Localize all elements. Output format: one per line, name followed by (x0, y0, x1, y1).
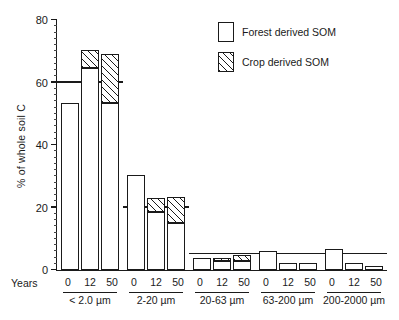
x-tick-label: 12 (145, 276, 167, 290)
bar (101, 54, 120, 270)
bar-group (57, 20, 123, 270)
bar (259, 251, 278, 270)
x-tick-label: 12 (211, 276, 233, 290)
bar (81, 50, 100, 270)
legend-label-forest: Forest derived SOM (242, 26, 336, 38)
bar (299, 263, 318, 270)
bar-segment-forest (259, 251, 278, 270)
x-tick-label: 50 (299, 276, 321, 290)
bar (61, 103, 80, 270)
bar (193, 258, 212, 271)
bar-segment-forest (147, 212, 166, 270)
bar-segment-forest (345, 263, 364, 271)
bar-segment-crop (213, 258, 232, 261)
bar (325, 249, 344, 270)
x-axis-title: Years (11, 277, 37, 289)
legend-label-crop: Crop derived SOM (242, 56, 329, 68)
x-tick-label: 50 (167, 276, 189, 290)
x-tick-label-row: 01250 (57, 276, 123, 290)
bar-segment-crop (101, 54, 120, 102)
bar-segment-forest (325, 249, 344, 270)
y-tick-label: 80 (36, 14, 48, 26)
bar-segment-forest (213, 261, 232, 270)
x-group-underline (327, 292, 381, 293)
y-tick-label: 40 (36, 139, 48, 151)
x-tick-label-row: 01250 (255, 276, 321, 290)
x-group-label: 20-63 µm (185, 294, 259, 306)
legend-item-forest: Forest derived SOM (218, 22, 336, 42)
bar-segment-forest (299, 263, 318, 270)
x-tick-label: 0 (57, 276, 79, 290)
chart-figure: % of whole soil C 020406080 Forest deriv… (0, 0, 399, 320)
bar-segment-forest (101, 103, 120, 270)
bar (167, 197, 186, 270)
legend-item-crop: Crop derived SOM (218, 52, 329, 72)
bar-segment-forest (193, 258, 212, 271)
y-axis-title: % of whole soil C (15, 76, 27, 216)
x-tick-label: 50 (365, 276, 387, 290)
y-tick-label: 20 (36, 202, 48, 214)
bar (345, 263, 364, 271)
x-group-label: 63-200 µm (251, 294, 325, 306)
bar (127, 175, 146, 270)
x-tick-label: 12 (277, 276, 299, 290)
legend: Forest derived SOM Crop derived SOM (218, 22, 381, 74)
legend-swatch-forest (218, 22, 234, 42)
x-tick-label: 0 (321, 276, 343, 290)
bar (365, 266, 384, 270)
x-tick-label-row: 01250 (321, 276, 387, 290)
bar-segment-forest (127, 175, 146, 270)
x-group-underline (63, 292, 117, 293)
x-group-label: < 2.0 µm (53, 294, 127, 306)
y-tick-label: 60 (36, 77, 48, 89)
x-tick-label: 0 (123, 276, 145, 290)
bar-group (123, 20, 189, 270)
x-group-label: 200-2000 µm (317, 294, 391, 306)
bar (233, 255, 252, 270)
bar (213, 258, 232, 270)
bar-segment-forest (279, 263, 298, 270)
x-axis: Years 01250< 2.0 µm012502-20 µm0125020-6… (0, 272, 399, 320)
bar-segment-forest (61, 103, 80, 270)
bar-segment-forest (233, 261, 252, 270)
bar-segment-forest (81, 68, 100, 270)
x-group-underline (195, 292, 249, 293)
x-group-label: 2-20 µm (119, 294, 193, 306)
x-group-underline (129, 292, 183, 293)
x-tick-label: 50 (101, 276, 123, 290)
legend-swatch-crop (218, 52, 234, 72)
bar-segment-crop (233, 255, 252, 261)
x-tick-label: 12 (79, 276, 101, 290)
x-tick-label: 0 (255, 276, 277, 290)
bar-segment-crop (81, 50, 100, 69)
x-tick-label-row: 01250 (123, 276, 189, 290)
x-tick-label: 12 (343, 276, 365, 290)
bar-segment-crop (147, 198, 166, 212)
x-group-underline (261, 292, 315, 293)
bar (279, 263, 298, 270)
bar-segment-crop (167, 197, 186, 224)
bar-segment-forest (167, 223, 186, 270)
x-tick-label-row: 01250 (189, 276, 255, 290)
bar-segment-forest (365, 266, 384, 270)
bar (147, 198, 166, 270)
x-tick-label: 50 (233, 276, 255, 290)
x-tick-label: 0 (189, 276, 211, 290)
